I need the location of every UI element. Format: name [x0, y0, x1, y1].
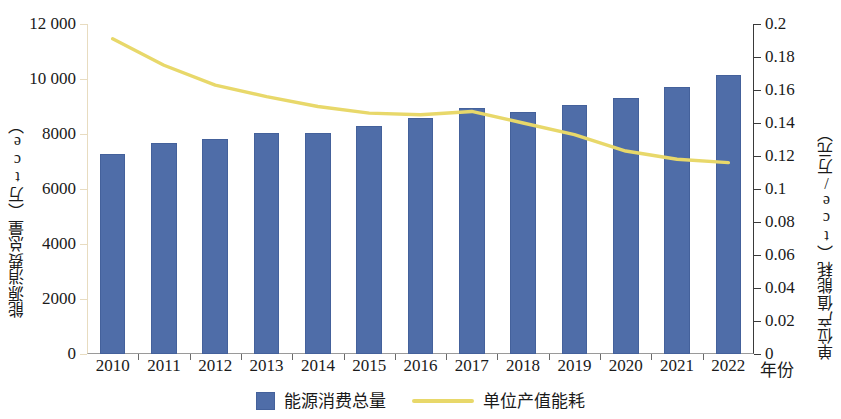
x-tick-label-2018: 2018 [506, 356, 540, 376]
bar-swatch-icon [256, 392, 275, 410]
x-tick-label-2015: 2015 [352, 356, 386, 376]
left-tick [80, 244, 87, 245]
right-tick [754, 288, 761, 289]
right-tick-label: 0.12 [765, 147, 795, 164]
x-tick-label-2014: 2014 [301, 356, 335, 376]
x-tick-label-2020: 2020 [609, 356, 643, 376]
x-axis-title: 年份 [760, 356, 794, 381]
right-tick-label: 0.16 [765, 81, 795, 98]
right-tick [754, 222, 761, 223]
right-tick [754, 156, 761, 157]
x-tick-label-2013: 2013 [250, 356, 284, 376]
x-tick-label-2011: 2011 [147, 356, 180, 376]
right-tick [754, 123, 761, 124]
left-tick-label: 12 000 [29, 15, 76, 32]
left-tick [80, 299, 87, 300]
right-tick [754, 90, 761, 91]
right-tick-label: 0.06 [765, 246, 795, 263]
right-tick-label: 0.18 [765, 48, 795, 65]
right-tick-label: 0.14 [765, 114, 795, 131]
legend-label-energy-consumption: 能源消费总量 [284, 393, 386, 410]
right-axis-title: 单位产值能耗（tce/万元） [815, 118, 839, 360]
left-tick [80, 79, 87, 80]
left-tick-label: 10 000 [29, 70, 76, 87]
left-tick [80, 354, 87, 355]
right-tick-label: 0.02 [765, 312, 795, 329]
x-tick-label-2010: 2010 [96, 356, 130, 376]
left-tick-label: 8000 [42, 125, 76, 142]
line-swatch-icon [412, 399, 474, 403]
x-tick-label-2012: 2012 [198, 356, 232, 376]
plot-area [87, 24, 754, 354]
x-tick-label-2017: 2017 [455, 356, 489, 376]
right-tick [754, 57, 761, 58]
left-tick [80, 24, 87, 25]
energy-consumption-chart: 能源消费总量（万tce） 单位产值能耗（tce/万元） 020004000600… [0, 0, 841, 419]
line-series-energy-intensity [87, 24, 754, 354]
chart-legend: 能源消费总量 单位产值能耗 [0, 386, 841, 416]
right-tick-label: 0.08 [765, 213, 795, 230]
right-tick-label: 0.04 [765, 279, 795, 296]
left-tick-label: 0 [68, 345, 77, 362]
legend-item-energy-consumption: 能源消费总量 [256, 392, 386, 410]
legend-label-energy-intensity: 单位产值能耗 [483, 393, 585, 410]
left-tick-label: 6000 [42, 180, 76, 197]
right-tick [754, 321, 761, 322]
right-tick [754, 255, 761, 256]
left-tick-label: 4000 [42, 235, 76, 252]
right-tick [754, 354, 761, 355]
right-axis-tick-labels: 00.020.040.060.080.10.120.140.160.180.2 [761, 24, 811, 354]
right-tick [754, 189, 761, 190]
x-tick-label-2022: 2022 [711, 356, 745, 376]
left-tick [80, 134, 87, 135]
right-tick [754, 24, 761, 25]
left-tick-label: 2000 [42, 290, 76, 307]
x-tick-label-2019: 2019 [557, 356, 591, 376]
x-tick-label-2021: 2021 [660, 356, 694, 376]
x-tick-label-2016: 2016 [404, 356, 438, 376]
x-axis-tick-labels: 2010201120122013201420152016201720182019… [87, 356, 754, 380]
right-tick-label: 0.1 [765, 180, 786, 197]
left-tick [80, 189, 87, 190]
left-axis-tick-labels: 0200040006000800010 00012 000 [0, 24, 82, 354]
legend-item-energy-intensity: 单位产值能耗 [412, 393, 585, 410]
right-tick-label: 0.2 [765, 15, 786, 32]
